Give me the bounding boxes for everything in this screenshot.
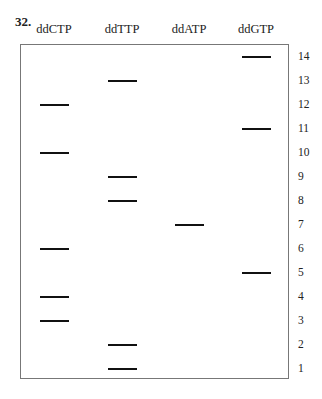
row-label-2: 2 bbox=[298, 338, 318, 350]
row-label-12: 12 bbox=[298, 98, 318, 110]
band-ddatp-7 bbox=[175, 224, 204, 226]
row-label-6: 6 bbox=[298, 242, 318, 254]
band-ddttp-8 bbox=[108, 200, 137, 202]
row-label-10: 10 bbox=[298, 146, 318, 158]
band-ddttp-9 bbox=[108, 176, 137, 178]
row-label-1: 1 bbox=[298, 362, 318, 374]
row-label-4: 4 bbox=[298, 290, 318, 302]
lane-label-ddgtp: ddGTP bbox=[226, 22, 286, 37]
lane-label-ddttp: ddTTP bbox=[92, 22, 152, 37]
band-ddctp-12 bbox=[40, 104, 69, 106]
band-ddgtp-14 bbox=[242, 56, 271, 58]
band-ddctp-3 bbox=[40, 320, 69, 322]
band-ddgtp-5 bbox=[242, 272, 271, 274]
row-label-5: 5 bbox=[298, 266, 318, 278]
band-ddctp-10 bbox=[40, 152, 69, 154]
band-ddttp-1 bbox=[108, 368, 137, 370]
lane-label-ddatp: ddATP bbox=[159, 22, 219, 37]
row-label-7: 7 bbox=[298, 218, 318, 230]
row-label-9: 9 bbox=[298, 170, 318, 182]
band-ddttp-13 bbox=[108, 80, 137, 82]
lane-label-ddctp: ddCTP bbox=[24, 22, 84, 37]
sequencing-gel bbox=[20, 44, 289, 379]
row-label-8: 8 bbox=[298, 194, 318, 206]
band-ddctp-6 bbox=[40, 248, 69, 250]
band-ddctp-4 bbox=[40, 296, 69, 298]
row-label-3: 3 bbox=[298, 314, 318, 326]
row-label-14: 14 bbox=[298, 50, 318, 62]
row-label-11: 11 bbox=[298, 122, 318, 134]
band-ddttp-2 bbox=[108, 344, 137, 346]
band-ddgtp-11 bbox=[242, 128, 271, 130]
row-label-13: 13 bbox=[298, 74, 318, 86]
